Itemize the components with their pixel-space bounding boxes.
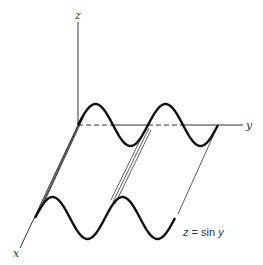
equation-operator: = sin xyxy=(189,226,219,238)
equation-variable: y xyxy=(217,226,225,238)
x-axis xyxy=(20,125,78,248)
sine-surface-diagram: z y x z = sin y xyxy=(0,0,263,265)
front-sine-curve xyxy=(35,197,175,239)
y-axis-label: y xyxy=(245,119,253,132)
equation-label: z = sin y xyxy=(182,226,225,238)
x-axis-label: x xyxy=(13,247,20,260)
z-axis-label: z xyxy=(74,9,81,22)
